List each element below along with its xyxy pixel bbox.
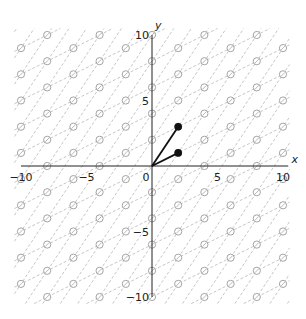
lattice-point — [279, 280, 286, 287]
lattice-point — [44, 267, 51, 274]
y-tick-label: −5 — [133, 226, 149, 239]
lattice-point — [279, 45, 286, 52]
lattice-point — [227, 280, 234, 287]
lattice-point — [70, 202, 77, 209]
lattice-point — [227, 202, 234, 209]
lattice-point — [175, 176, 182, 183]
lattice-point — [175, 228, 182, 235]
lattice-point — [96, 58, 103, 65]
lattice-point — [17, 280, 24, 287]
lattice-point — [175, 71, 182, 78]
dashed-line — [14, 28, 34, 57]
lattice-point — [227, 176, 234, 183]
lattice-point — [279, 228, 286, 235]
lattice-point — [227, 149, 234, 156]
lattice-point — [201, 110, 208, 117]
lattice-point — [44, 58, 51, 65]
lattice-point — [44, 84, 51, 91]
lattice-point — [17, 202, 24, 209]
lattice-point — [253, 215, 260, 222]
lattice-point — [279, 123, 286, 130]
lattice-point — [70, 45, 77, 52]
dashed-line — [14, 28, 121, 188]
lattice-point — [279, 71, 286, 78]
y-tick-label: 5 — [142, 95, 149, 108]
lattice-point — [122, 228, 129, 235]
lattice-point — [227, 97, 234, 104]
lattice-point — [70, 123, 77, 130]
lattice-point — [175, 202, 182, 209]
lattice-point — [253, 110, 260, 117]
lattice-point — [96, 267, 103, 274]
lattice-point — [44, 215, 51, 222]
lattice-point — [17, 45, 24, 52]
lattice-point — [122, 97, 129, 104]
lattice-point — [17, 228, 24, 235]
lattice-point — [253, 189, 260, 196]
lattice-point — [279, 149, 286, 156]
lattice-point — [70, 176, 77, 183]
dashed-line — [148, 91, 290, 304]
lattice-point — [227, 254, 234, 261]
lattice-point — [227, 71, 234, 78]
lattice-point — [253, 293, 260, 300]
dashed-line — [14, 28, 138, 215]
dashed-line — [287, 300, 289, 303]
basis-vectors — [152, 123, 182, 166]
dashed-line — [14, 28, 156, 241]
dashed-line — [113, 38, 290, 303]
lattice-point — [122, 123, 129, 130]
dashed-line — [200, 169, 290, 303]
lattice-chart: −10−50510−10−5510xy — [0, 0, 306, 319]
lattice-point — [253, 241, 260, 248]
lattice-point — [70, 280, 77, 287]
dashed-line — [14, 28, 191, 293]
lattice-point — [201, 31, 208, 38]
dashed-line — [14, 28, 16, 31]
y-axis-label: y — [154, 19, 162, 32]
lattice-point — [122, 71, 129, 78]
lattice-point — [70, 71, 77, 78]
lattice-point — [44, 110, 51, 117]
lattice-point — [96, 215, 103, 222]
y-tick-label: −10 — [126, 291, 149, 304]
lattice-point — [122, 176, 129, 183]
lattice-point — [70, 97, 77, 104]
dashed-line — [14, 28, 86, 136]
vector-tip-v1 — [174, 149, 182, 157]
lattice-point — [44, 189, 51, 196]
lattice-point — [175, 280, 182, 287]
lattice-point — [44, 136, 51, 143]
lattice-point — [227, 228, 234, 235]
vector-tip-v2 — [174, 123, 182, 131]
lattice-point — [17, 254, 24, 261]
lattice-point — [175, 97, 182, 104]
lattice-point — [96, 189, 103, 196]
lattice-point — [201, 241, 208, 248]
y-tick-label: 10 — [135, 29, 149, 42]
lattice-point — [227, 45, 234, 52]
lattice-point — [17, 123, 24, 130]
dashed-line — [218, 195, 290, 303]
lattice-point — [201, 215, 208, 222]
lattice-point — [279, 254, 286, 261]
lattice-point — [70, 149, 77, 156]
lattice-point — [175, 45, 182, 52]
lattice-point — [122, 45, 129, 52]
x-tick-label: 5 — [214, 171, 221, 184]
lattice-point — [201, 293, 208, 300]
lattice-point — [122, 202, 129, 209]
x-tick-label: 0 — [143, 171, 150, 184]
lattice-point — [201, 189, 208, 196]
lattice-point — [253, 58, 260, 65]
lattice-point — [253, 136, 260, 143]
lattice-point — [201, 58, 208, 65]
lattice-point — [44, 31, 51, 38]
lattice-point — [201, 84, 208, 91]
lattice-point — [70, 228, 77, 235]
lattice-point — [253, 267, 260, 274]
x-tick-label: −10 — [9, 171, 32, 184]
lattice-point — [96, 293, 103, 300]
lattice-point — [253, 31, 260, 38]
dashed-line — [14, 28, 104, 162]
